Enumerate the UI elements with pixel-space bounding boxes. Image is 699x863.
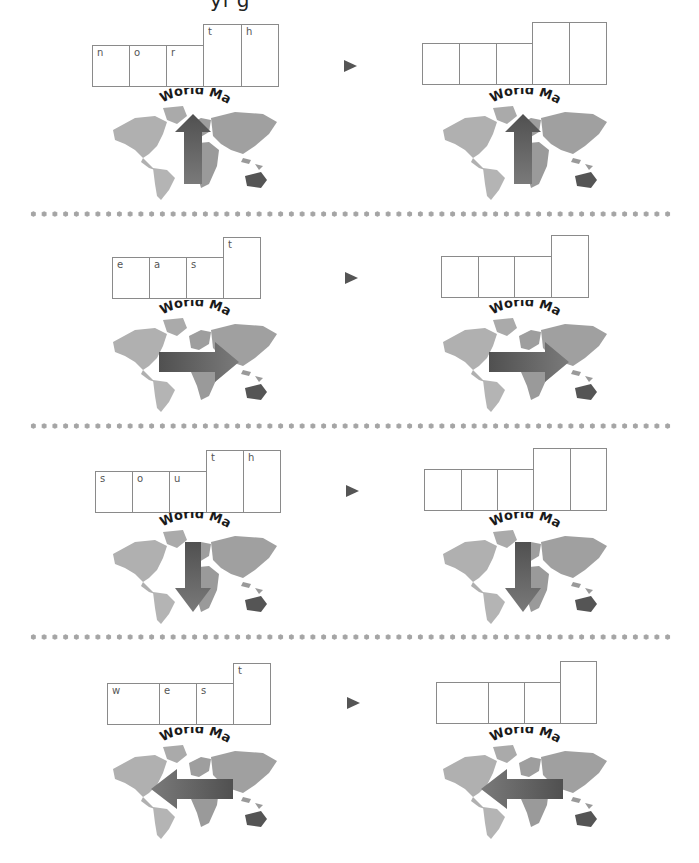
blank-letter-box[interactable] — [497, 469, 534, 511]
cut-off-title: yi g — [210, 0, 250, 12]
blank-letter-box[interactable] — [488, 682, 525, 724]
world-map-north-arrow-icon — [435, 88, 610, 203]
letter-box: h — [243, 450, 281, 513]
blank-letter-box[interactable] — [524, 682, 561, 724]
world-map-south-arrow-icon — [105, 512, 280, 627]
letter-box: a — [149, 257, 187, 299]
letter: t — [208, 26, 212, 37]
letter: e — [117, 259, 123, 270]
letter-box: s — [186, 257, 224, 299]
letter: w — [112, 685, 120, 696]
letter-box: n — [92, 45, 130, 87]
world-map-east-arrow-icon — [105, 300, 280, 415]
letter-box: u — [169, 471, 207, 513]
blank-letter-box[interactable] — [478, 256, 515, 298]
world-map-west-arrow-icon — [435, 727, 610, 842]
letter-box: w — [107, 683, 160, 725]
letter: a — [154, 259, 160, 270]
blank-letter-box[interactable] — [560, 661, 597, 724]
letter: s — [201, 685, 206, 696]
letter: o — [134, 47, 140, 58]
letter: t — [228, 239, 232, 250]
world-map-north-arrow-icon — [105, 88, 280, 203]
world-map-west-arrow-icon — [105, 727, 280, 842]
letter-box: s — [196, 683, 234, 725]
dotted-divider — [28, 211, 673, 217]
letter-box: o — [132, 471, 170, 513]
blank-letter-box[interactable] — [514, 256, 552, 298]
blank-letter-box[interactable] — [533, 448, 571, 511]
letter: u — [174, 473, 180, 484]
letter: n — [97, 47, 103, 58]
blank-letter-box[interactable] — [570, 448, 607, 511]
letter: e — [164, 685, 170, 696]
triangle-right-icon — [345, 272, 358, 284]
letter-box: t — [223, 237, 261, 299]
letter-box: r — [166, 45, 204, 87]
dotted-divider — [28, 634, 673, 640]
blank-letter-box[interactable] — [569, 22, 607, 85]
letter-box: e — [112, 257, 150, 299]
blank-letter-box[interactable] — [532, 22, 570, 85]
blank-letter-box[interactable] — [461, 469, 498, 511]
blank-letter-box[interactable] — [441, 256, 479, 298]
letter: t — [211, 452, 215, 463]
letter-box: e — [159, 683, 197, 725]
blank-letter-box[interactable] — [424, 469, 462, 511]
world-map-east-arrow-icon — [435, 300, 610, 415]
letter: s — [100, 473, 105, 484]
triangle-right-icon — [347, 697, 360, 709]
letter: h — [246, 26, 252, 37]
blank-letter-box[interactable] — [459, 43, 497, 85]
letter: s — [191, 259, 196, 270]
letter-box: h — [241, 24, 279, 87]
letter: t — [238, 665, 242, 676]
letter: h — [248, 452, 254, 463]
triangle-right-icon — [346, 485, 359, 497]
letter-box: o — [129, 45, 167, 87]
blank-letter-box[interactable] — [436, 682, 489, 724]
blank-letter-box[interactable] — [551, 235, 589, 298]
letter: r — [171, 47, 175, 58]
letter-box: s — [95, 471, 133, 513]
blank-letter-box[interactable] — [422, 43, 460, 85]
letter-box: t — [206, 450, 244, 513]
triangle-right-icon — [344, 60, 357, 72]
world-map-south-arrow-icon — [435, 512, 610, 627]
letter-box: t — [203, 24, 242, 87]
dotted-divider — [28, 423, 673, 429]
letter: o — [137, 473, 143, 484]
letter-box: t — [233, 663, 271, 725]
blank-letter-box[interactable] — [496, 43, 533, 85]
